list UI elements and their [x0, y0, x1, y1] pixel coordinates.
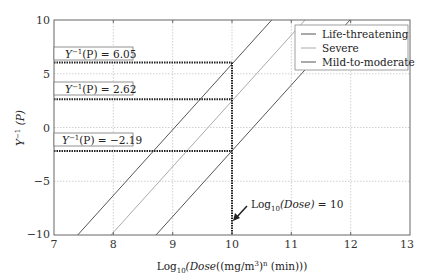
legend: Life-threatening Severe Mild-to-moderate [295, 25, 415, 70]
svg-text:Log10(Dose) = 10: Log10(Dose) = 10 [251, 198, 343, 213]
svg-text:11: 11 [284, 238, 298, 251]
series-severe [111, 20, 305, 235]
svg-text:−5: −5 [34, 175, 50, 188]
legend-mild-to-moderate: Mild-to-moderate [322, 56, 415, 68]
y-tick-labels: 10 5 0 −5 −10 [27, 14, 50, 241]
svg-text:10: 10 [36, 14, 50, 27]
svg-text:7: 7 [51, 238, 58, 251]
x-tick-labels: 7 8 9 10 11 12 13 [51, 238, 415, 251]
svg-text:0: 0 [43, 122, 50, 135]
annotation-minus-2-19: Y−1(P) = −2.19 [54, 133, 142, 146]
annotation-2-62: Y−1(P) = 2.62 [54, 82, 136, 95]
svg-text:12: 12 [344, 238, 358, 251]
svg-text:10: 10 [225, 238, 239, 251]
svg-text:9: 9 [169, 238, 176, 251]
y-axis-label: Y−1 (P) [14, 110, 26, 146]
legend-life-threatening: Life-threatening [322, 28, 409, 40]
x-axis-label: Log10(Dose((mg/m3)n (min))) [157, 260, 308, 275]
svg-text:13: 13 [400, 238, 414, 251]
legend-severe: Severe [322, 42, 359, 54]
annotation-6-05: Y−1(P) = 6.05 [54, 47, 136, 60]
svg-text:−10: −10 [27, 228, 50, 241]
svg-text:8: 8 [110, 238, 117, 251]
chart: 7 8 9 10 11 12 13 10 5 0 −5 −10 Y−1(P) =… [0, 0, 430, 278]
annotation-dose-10: Log10(Dose) = 10 [233, 198, 343, 221]
svg-text:5: 5 [43, 68, 50, 81]
